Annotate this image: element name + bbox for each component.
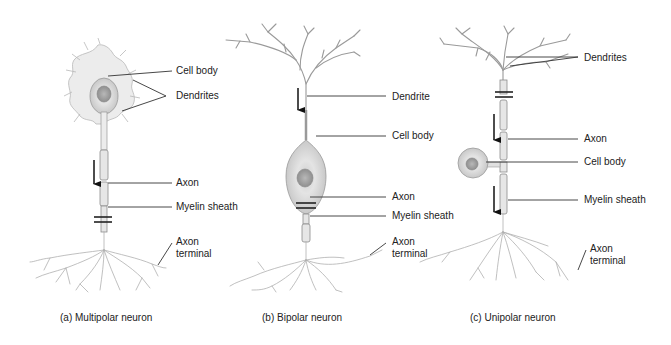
caption-multipolar: (a) Multipolar neuron — [60, 312, 152, 323]
label-axon-c: Axon — [584, 133, 607, 145]
label-axon-terminal-a-line2: terminal — [176, 248, 212, 260]
label-axon-a: Axon — [176, 177, 199, 189]
label-cell-body-c: Cell body — [584, 156, 626, 168]
label-axon-terminal-b: Axon terminal — [392, 236, 428, 260]
label-dendrites-c: Dendrites — [584, 52, 627, 64]
unipolar-axon-terminal — [420, 214, 568, 280]
neuron-diagram — [0, 0, 671, 345]
label-axon-b: Axon — [392, 191, 415, 203]
unipolar-neuron-figure — [420, 26, 586, 280]
label-axon-terminal-b-line2: terminal — [392, 248, 428, 260]
myelin-segment — [100, 182, 108, 206]
bipolar-axon-terminal — [230, 242, 382, 292]
label-cell-body-a: Cell body — [176, 65, 218, 77]
label-cell-body-b: Cell body — [392, 130, 434, 142]
bipolar-dendrite-tree — [226, 24, 360, 110]
caption-bipolar: (b) Bipolar neuron — [262, 312, 342, 323]
label-axon-terminal-a: Axon terminal — [176, 236, 212, 260]
label-axon-terminal-c: Axon terminal — [590, 243, 626, 267]
label-dendrite-b: Dendrite — [392, 91, 430, 103]
label-axon-terminal-a-line1: Axon — [176, 236, 212, 248]
label-axon-terminal-c-line1: Axon — [590, 243, 626, 255]
myelin-segment — [500, 100, 507, 130]
caption-unipolar: (c) Unipolar neuron — [470, 312, 556, 323]
myelin-segment — [100, 150, 108, 180]
unipolar-dendrite-tree — [440, 26, 570, 80]
label-dendrites-a: Dendrites — [176, 90, 219, 102]
label-myelin-sheath-b: Myelin sheath — [392, 210, 454, 222]
label-myelin-sheath-c: Myelin sheath — [584, 194, 646, 206]
label-axon-terminal-b-line1: Axon — [392, 236, 428, 248]
myelin-segment — [500, 174, 507, 214]
myelin-segment — [302, 224, 310, 242]
multipolar-neuron-figure — [30, 38, 172, 292]
label-axon-terminal-c-line2: terminal — [590, 255, 626, 267]
myelin-segment — [500, 132, 507, 160]
bipolar-neuron-figure — [226, 24, 386, 292]
multipolar-nucleus — [97, 86, 111, 102]
label-myelin-sheath-a: Myelin sheath — [176, 201, 238, 213]
multipolar-axon-terminal — [30, 232, 166, 292]
